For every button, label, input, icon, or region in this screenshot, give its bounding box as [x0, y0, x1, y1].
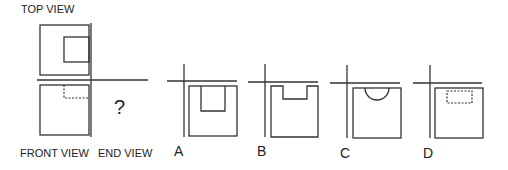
- end-view-label: END VIEW: [98, 147, 153, 159]
- top-view-inner-square: [64, 37, 89, 62]
- option-d-outline: [435, 88, 483, 138]
- option-a[interactable]: A: [167, 64, 237, 159]
- option-a-label[interactable]: A: [174, 143, 184, 159]
- option-b-notched-outline: [271, 86, 318, 137]
- option-d-label[interactable]: D: [423, 145, 433, 161]
- end-view-question-mark: ?: [114, 96, 125, 118]
- option-c-semicircle-notch: [365, 88, 389, 100]
- option-b[interactable]: B: [248, 64, 318, 159]
- option-c-label[interactable]: C: [340, 145, 350, 161]
- option-c[interactable]: C: [330, 65, 401, 161]
- top-view: [40, 25, 89, 75]
- question-axes: [37, 23, 148, 137]
- orthographic-projection-diagram: TOP VIEW FRONT VIEW END VIEW ? A B C: [0, 0, 508, 170]
- front-view: [40, 85, 89, 135]
- top-view-label: TOP VIEW: [21, 3, 75, 15]
- option-c-outline: [353, 88, 401, 138]
- front-view-hidden-line: [64, 85, 89, 98]
- option-b-label[interactable]: B: [257, 143, 266, 159]
- front-view-label: FRONT VIEW: [20, 147, 89, 159]
- option-a-inner-cut: [201, 86, 225, 111]
- option-d[interactable]: D: [413, 65, 483, 161]
- option-d-hidden-rectangle: [447, 91, 472, 103]
